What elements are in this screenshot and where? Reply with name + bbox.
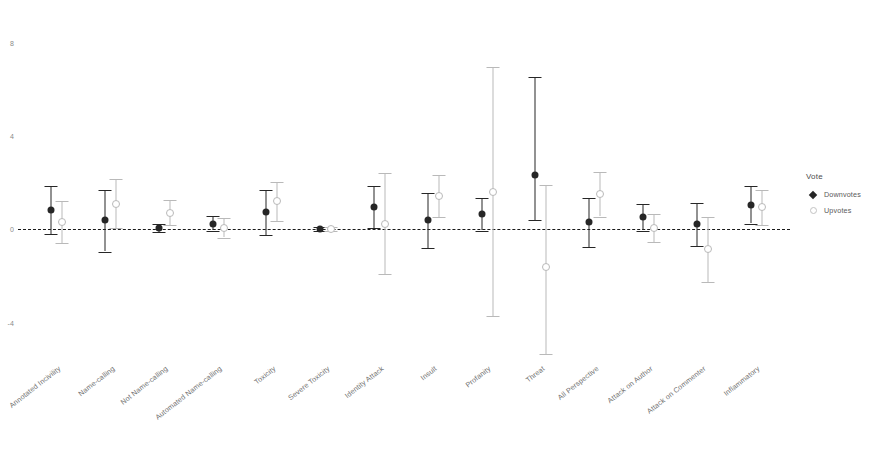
- x-tick-label: Attack on Author: [605, 364, 654, 405]
- data-point: [220, 224, 228, 232]
- data-point: [435, 192, 443, 200]
- data-point: [542, 263, 550, 271]
- error-bar-cap: [260, 235, 273, 236]
- error-bar-cap: [99, 252, 112, 253]
- error-bar-cap: [690, 203, 703, 204]
- x-tick-label: Severe Toxicity: [286, 364, 331, 402]
- data-point: [58, 218, 66, 226]
- error-bar-cap: [583, 247, 596, 248]
- error-bar-cap: [648, 214, 661, 215]
- data-point: [381, 220, 389, 228]
- error-bar-cap: [432, 217, 445, 218]
- error-bar-cap: [486, 67, 499, 68]
- data-point: [478, 211, 485, 218]
- y-tick-label: 4: [10, 133, 14, 140]
- x-tick-label: Toxicity: [252, 364, 277, 386]
- legend-item-downvotes[interactable]: Downvotes: [806, 188, 880, 201]
- error-bar-cap: [529, 77, 542, 78]
- error-bar-cap: [755, 190, 768, 191]
- x-tick-label: All Perspective: [555, 364, 600, 402]
- error-bar-cap: [637, 231, 650, 232]
- legend: Vote DownvotesUpvotes: [806, 172, 880, 220]
- data-point: [758, 203, 766, 211]
- x-tick-label: Insult: [419, 364, 439, 382]
- error-bar-cap: [637, 204, 650, 205]
- error-bar-cap: [56, 201, 69, 202]
- data-point: [166, 209, 174, 217]
- error-bar-cap: [163, 225, 176, 226]
- error-bar-cap: [110, 228, 123, 229]
- x-tick-label: Name-calling: [76, 364, 116, 398]
- error-bar-cap: [99, 190, 112, 191]
- error-bar-cap: [56, 243, 69, 244]
- y-tick-label: 8: [10, 39, 14, 46]
- x-tick-label: Annotated Incivility: [7, 364, 62, 410]
- x-tick-label: Profanity: [464, 364, 493, 389]
- data-point: [424, 217, 431, 224]
- data-point: [327, 225, 335, 233]
- chart-root: 840-4 Annotated IncivilityName-callingNo…: [0, 0, 882, 469]
- error-bar-cap: [206, 216, 219, 217]
- circle-icon: [806, 207, 820, 214]
- error-bar-cap: [486, 316, 499, 317]
- error-bar-cap: [529, 220, 542, 221]
- data-point: [371, 204, 378, 211]
- error-bar-cap: [701, 217, 714, 218]
- data-point: [263, 208, 270, 215]
- data-point: [48, 206, 55, 213]
- legend-item-upvotes[interactable]: Upvotes: [806, 204, 880, 217]
- error-bar-cap: [379, 173, 392, 174]
- error-bar-cap: [475, 198, 488, 199]
- error-bar-cap: [368, 186, 381, 187]
- legend-key-shape: [809, 190, 817, 198]
- x-tick-label: Not Name-calling: [119, 364, 170, 407]
- data-point: [640, 213, 647, 220]
- error-bar-cap: [163, 200, 176, 201]
- error-bar-cap: [701, 282, 714, 283]
- legend-label: Downvotes: [824, 190, 861, 199]
- error-bar-cap: [368, 228, 381, 229]
- y-tick-label: 0: [10, 226, 14, 233]
- error-bar-cap: [271, 221, 284, 222]
- error-bar-cap: [110, 179, 123, 180]
- y-tick-label: -4: [7, 319, 14, 326]
- data-point: [693, 221, 700, 228]
- data-point: [155, 225, 162, 232]
- error-bar-cap: [206, 231, 219, 232]
- error-bar-cap: [260, 190, 273, 191]
- x-tick-label: Inflammatory: [722, 364, 762, 398]
- data-point: [102, 216, 109, 223]
- error-bar-cap: [421, 248, 434, 249]
- plot-panel: 840-4: [18, 10, 790, 360]
- data-point: [747, 201, 754, 208]
- error-bar-cap: [379, 274, 392, 275]
- data-point: [209, 220, 216, 227]
- error-bar-cap: [271, 182, 284, 183]
- error-bar-cap: [45, 186, 58, 187]
- error-bar-cap: [755, 225, 768, 226]
- legend-key-shape: [810, 207, 817, 214]
- error-bar-cap: [540, 354, 553, 355]
- x-axis: Annotated IncivilityName-callingNot Name…: [18, 360, 790, 460]
- data-point: [532, 171, 539, 178]
- x-tick-label: Threat: [524, 364, 547, 384]
- error-bar-cap: [432, 175, 445, 176]
- error-bar: [535, 77, 536, 221]
- data-point: [273, 197, 281, 205]
- data-point: [586, 219, 593, 226]
- error-bar-cap: [421, 193, 434, 194]
- legend-label: Upvotes: [824, 206, 851, 215]
- x-tick-label: Identity Attack: [342, 364, 385, 400]
- legend-title: Vote: [806, 172, 880, 181]
- data-point: [112, 200, 120, 208]
- data-point: [489, 188, 497, 196]
- zero-reference-line: [18, 229, 790, 230]
- error-bar-cap: [217, 218, 230, 219]
- error-bar-cap: [45, 234, 58, 235]
- error-bar-cap: [648, 242, 661, 243]
- data-point: [704, 245, 712, 253]
- error-bar-cap: [583, 198, 596, 199]
- error-bar-cap: [540, 185, 553, 186]
- error-bar-cap: [217, 238, 230, 239]
- data-point: [650, 224, 658, 232]
